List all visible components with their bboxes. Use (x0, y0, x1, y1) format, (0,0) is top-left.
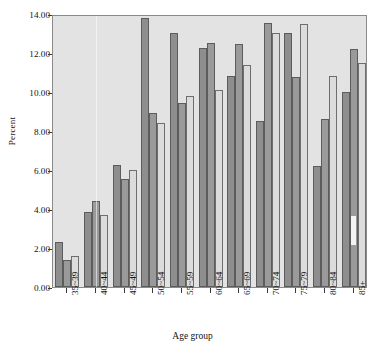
plot-area (52, 15, 367, 288)
scan-band-artifact (96, 16, 97, 287)
bar (284, 33, 292, 287)
y-axis-ticks: 0.002.004.006.008.0010.0012.0014.00 (12, 0, 50, 349)
x-axis-tick-mark (152, 288, 153, 293)
bar (141, 18, 149, 287)
x-axis-tick-mark (267, 288, 268, 293)
x-axis-tick-label: 50~54 (156, 249, 166, 295)
bar (199, 48, 207, 287)
x-axis-tick-mark (238, 288, 239, 293)
bar-group (141, 16, 165, 287)
bar (342, 92, 350, 287)
bar (227, 76, 235, 287)
x-axis-tick-label: 70~74 (271, 249, 281, 295)
x-axis-tick-label: 75~79 (299, 249, 309, 295)
y-axis-tick-label: 14.00 (29, 10, 50, 21)
x-axis-tick-mark (295, 288, 296, 293)
bar (170, 33, 178, 287)
x-axis-tick-mark (66, 288, 67, 293)
bar-group (342, 16, 366, 287)
bar (313, 166, 321, 287)
bar-group (227, 16, 251, 287)
x-axis-tick-label: 45~49 (128, 249, 138, 295)
bar (84, 212, 92, 287)
bar-group (170, 16, 194, 287)
y-axis-tick-label: 10.00 (29, 88, 50, 99)
x-axis-title: Age group (0, 331, 385, 341)
y-axis-tick-mark (48, 288, 52, 289)
x-axis-tick-label: 60~64 (214, 249, 224, 295)
x-axis-tick-mark (181, 288, 182, 293)
bar-group (313, 16, 337, 287)
bar (264, 23, 272, 287)
bar-group (113, 16, 137, 287)
bar (256, 121, 264, 287)
scan-flaw-artifact (351, 216, 356, 245)
x-axis-tick-mark (124, 288, 125, 293)
bar-chart: Percent 0.002.004.006.008.0010.0012.0014… (0, 0, 385, 349)
x-axis-tick-mark (95, 288, 96, 293)
bar (113, 165, 121, 287)
x-axis-tick-label: 35~39 (70, 249, 80, 295)
bar (300, 24, 308, 287)
x-axis-tick-mark (324, 288, 325, 293)
x-axis-tick-label: 40~44 (99, 249, 109, 295)
x-axis-tick-mark (210, 288, 211, 293)
x-axis-tick-mark (353, 288, 354, 293)
bar-group (256, 16, 280, 287)
x-axis-tick-label: 85+ (357, 249, 367, 295)
bar-group (199, 16, 223, 287)
bars-container (53, 16, 366, 287)
y-axis-tick-label: 12.00 (29, 49, 50, 60)
x-axis-tick-label: 55~59 (185, 249, 195, 295)
bar-group (55, 16, 79, 287)
x-axis-tick-label: 65~69 (242, 249, 252, 295)
bar-group (284, 16, 308, 287)
x-axis-tick-label: 80~84 (328, 249, 338, 295)
bar (55, 242, 63, 287)
